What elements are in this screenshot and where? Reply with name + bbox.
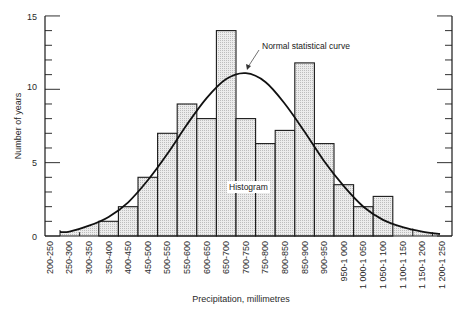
x-tick-label: 800-850 — [280, 241, 290, 274]
x-tick-label: 300-350 — [84, 241, 94, 274]
histogram-bar — [138, 177, 158, 236]
histogram-bar — [236, 119, 256, 236]
y-tick-label: 5 — [32, 158, 37, 168]
x-axis-title: Precipitation, millimetres — [192, 294, 290, 304]
histogram-chart: 200-250250-300300-350350-400400-450450-5… — [0, 0, 465, 315]
histogram-bar — [334, 185, 354, 236]
x-tick-label: 400-450 — [123, 241, 133, 274]
histogram-bar — [99, 221, 119, 236]
histogram-bars — [99, 31, 393, 236]
x-tick-label: 900-950 — [319, 241, 329, 274]
x-tick-label: 600-650 — [202, 241, 212, 274]
histogram-annotation: Histogram — [229, 182, 268, 192]
y-tick-label: 10 — [27, 82, 37, 92]
x-tick-label: 200-250 — [45, 241, 55, 274]
x-tick-label: 850-900 — [300, 241, 310, 274]
histogram-bar — [295, 63, 315, 236]
histogram-bar — [216, 31, 236, 236]
histogram-bar — [197, 119, 217, 236]
x-tick-label: 1 050-1 100 — [378, 241, 388, 289]
x-tick-label: 1 100-1 150 — [398, 241, 408, 289]
y-tick-label: 0 — [32, 232, 37, 242]
x-tick-label: 700-750 — [241, 241, 251, 274]
histogram-bar — [275, 130, 295, 236]
annotation-arrow — [248, 50, 259, 67]
x-tick-label: 1 000-1 050 — [358, 241, 368, 289]
y-tick-label: 15 — [27, 12, 37, 22]
x-tick-label: 1 150-1 200 — [417, 241, 427, 289]
x-tick-labels: 200-250250-300300-350350-400400-450450-5… — [45, 241, 447, 289]
x-tick-label: 500-550 — [162, 241, 172, 274]
x-tick-label: 250-300 — [64, 241, 74, 274]
histogram-bar — [118, 207, 138, 236]
curve-annotation: Normal statistical curve — [262, 41, 350, 51]
arrowhead-icon — [246, 64, 251, 70]
histogram-bar — [158, 133, 178, 236]
x-tick-label: 650-700 — [221, 241, 231, 274]
x-tick-label: 450-500 — [143, 241, 153, 274]
y-axis-title: Number of years — [13, 92, 23, 159]
x-tick-label: 550-600 — [182, 241, 192, 274]
histogram-bar — [314, 144, 334, 236]
x-tick-label: 1 200-1 250 — [437, 241, 447, 289]
x-tick-label: 750-800 — [260, 241, 270, 274]
x-tick-label: 950-1 000 — [339, 241, 349, 282]
x-tick-label: 350-400 — [104, 241, 114, 274]
